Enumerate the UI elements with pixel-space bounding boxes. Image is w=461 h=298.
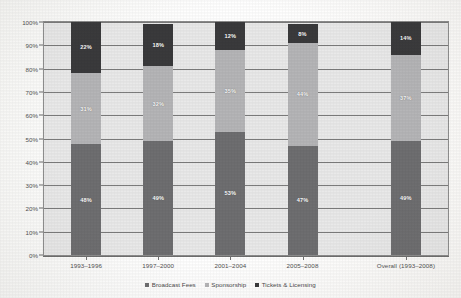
x-axis-tick-mark — [406, 256, 407, 260]
bar-segment-value-label: 49% — [152, 195, 164, 201]
x-axis-tick-label: 1997–2000 — [142, 262, 174, 269]
bar-segment-value-label: 32% — [152, 101, 164, 107]
bar-segment-value-label: 22% — [80, 44, 92, 50]
legend-label: Broadcast Fees — [152, 281, 196, 288]
x-axis-tick-mark — [86, 256, 87, 260]
y-axis-tick-label: 50% — [26, 135, 38, 142]
bar-segment-tickets-licensing: 22% — [71, 22, 101, 73]
legend-swatch-icon — [145, 283, 149, 287]
legend-item: Sponsorship — [205, 281, 246, 288]
bar-segment-broadcast-fees: 49% — [143, 141, 173, 255]
y-axis-tick-label: 20% — [26, 205, 38, 212]
x-axis-tick-label: Overall (1993–2008) — [377, 262, 435, 269]
x-axis-tick-mark — [158, 256, 159, 260]
x-axis-tick-mark — [230, 256, 231, 260]
legend-item: Tickets & Licensing — [255, 281, 316, 288]
gridline — [44, 45, 448, 46]
bar-segment-value-label: 14% — [400, 35, 412, 41]
gridline — [44, 115, 448, 116]
y-axis-tick-label: 0% — [29, 252, 38, 259]
legend-swatch-icon — [205, 283, 209, 287]
legend-item: Broadcast Fees — [145, 281, 196, 288]
bar-segment-sponsorship: 44% — [288, 43, 318, 146]
bar-segment-tickets-licensing: 12% — [215, 22, 245, 50]
bar-segment-value-label: 35% — [225, 88, 237, 94]
bar-3: 53%35%12% — [215, 22, 245, 255]
bar-4: 47%44%8% — [288, 22, 318, 255]
gridline — [44, 185, 448, 186]
legend-label: Tickets & Licensing — [262, 281, 316, 288]
y-axis-tick-label: 60% — [26, 112, 38, 119]
bar-segment-value-label: 12% — [225, 33, 237, 39]
chart-legend: Broadcast FeesSponsorshipTickets & Licen… — [0, 281, 461, 288]
y-axis-tick-label: 10% — [26, 228, 38, 235]
bar-segment-tickets-licensing: 14% — [391, 22, 421, 55]
bar-1: 48%31%22% — [71, 22, 101, 255]
bar-segment-value-label: 47% — [297, 197, 309, 203]
bar-2: 49%32%18% — [143, 22, 173, 255]
y-axis-tick-label: 40% — [26, 158, 38, 165]
bar-segment-tickets-licensing: 8% — [288, 24, 318, 43]
bar-segment-sponsorship: 31% — [71, 73, 101, 145]
stacked-bar-chart: 0%10%20%30%40%50%60%70%80%90%100% 48%31%… — [0, 0, 461, 298]
x-axis-tick-mark — [303, 256, 304, 260]
gridline — [44, 208, 448, 209]
gridline — [44, 22, 448, 23]
y-axis-tick-label: 100% — [22, 19, 38, 26]
gridline — [44, 232, 448, 233]
y-axis-tick-label: 90% — [26, 42, 38, 49]
bar-segment-value-label: 53% — [225, 190, 237, 196]
gridline — [44, 139, 448, 140]
y-axis-tick-label: 70% — [26, 88, 38, 95]
x-axis-tick-label: 2005–2008 — [287, 262, 319, 269]
bar-segment-value-label: 31% — [80, 106, 92, 112]
bar-segment-sponsorship: 37% — [391, 55, 421, 141]
bar-segment-broadcast-fees: 47% — [288, 146, 318, 256]
bar-segment-value-label: 8% — [298, 31, 306, 37]
bar-segment-value-label: 37% — [400, 95, 412, 101]
x-axis-tick-label: 1993–1996 — [70, 262, 102, 269]
bar-segment-tickets-licensing: 18% — [143, 24, 173, 66]
gridline — [44, 92, 448, 93]
bar-segment-sponsorship: 35% — [215, 50, 245, 132]
bar-segment-value-label: 49% — [400, 195, 412, 201]
gridline — [44, 69, 448, 70]
y-axis-tick-label: 30% — [26, 182, 38, 189]
legend-label: Sponsorship — [211, 281, 246, 288]
plot-area: 48%31%22%49%32%18%53%35%12%47%44%8%49%37… — [43, 21, 449, 256]
plot-inner: 48%31%22%49%32%18%53%35%12%47%44%8%49%37… — [44, 22, 448, 255]
x-axis-line — [43, 256, 449, 257]
bar-segment-broadcast-fees: 48% — [71, 144, 101, 255]
bar-segment-value-label: 48% — [80, 197, 92, 203]
bar-5: 49%37%14% — [391, 22, 421, 255]
bar-segment-value-label: 18% — [152, 42, 164, 48]
y-axis-tick-label: 80% — [26, 65, 38, 72]
x-axis-tick-label: 2001–2004 — [214, 262, 246, 269]
bar-segment-sponsorship: 32% — [143, 66, 173, 141]
gridline — [44, 162, 448, 163]
legend-swatch-icon — [255, 283, 259, 287]
y-axis: 0%10%20%30%40%50%60%70%80%90%100% — [0, 21, 43, 256]
bar-segment-broadcast-fees: 49% — [391, 141, 421, 255]
bar-segment-value-label: 44% — [297, 91, 309, 97]
bar-segment-broadcast-fees: 53% — [215, 132, 245, 255]
